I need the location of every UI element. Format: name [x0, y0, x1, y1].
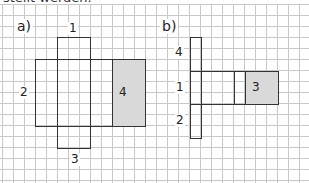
net-a-label-3: 3: [70, 153, 80, 166]
net-a-bottom-face: [57, 126, 91, 149]
net-b-label-1: 1: [175, 81, 185, 94]
net-a-label-1: 1: [68, 22, 78, 35]
net-a-label-4: 4: [118, 86, 128, 99]
net-a-top-face: [57, 37, 91, 60]
net-b-divider-1: [201, 71, 235, 105]
part-a-label: a): [15, 19, 33, 34]
net-a-center-column: [57, 59, 91, 127]
part-b-label: b): [160, 19, 178, 34]
cube-nets-figure: stellt werden. a) 1 2 3 4 b) 4 1 2 3: [0, 0, 309, 183]
net-b-label-4: 4: [174, 46, 184, 59]
net-b-label-2: 2: [175, 114, 185, 127]
net-b-label-3: 3: [251, 81, 261, 94]
net-a-label-2: 2: [19, 86, 29, 99]
